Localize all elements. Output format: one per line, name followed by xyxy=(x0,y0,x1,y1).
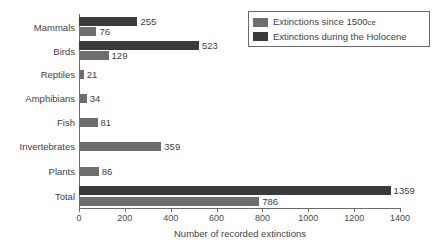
x-axis-tick-label: 0 xyxy=(76,213,81,224)
x-axis-tick-label: 400 xyxy=(163,213,178,224)
x-axis-tick-label: 1000 xyxy=(298,213,318,224)
legend-label-holocene: Extinctions during the Holocene xyxy=(273,31,407,42)
category-label: Amphibians xyxy=(5,93,79,104)
bar-value-label: 86 xyxy=(99,167,113,176)
bar-since-1500 xyxy=(79,142,161,151)
bar-since-1500 xyxy=(79,197,259,206)
x-axis-tick xyxy=(79,208,80,212)
x-axis-tick-label: 1200 xyxy=(344,213,364,224)
bar-value-label: 1359 xyxy=(391,186,415,195)
bar-holocene xyxy=(79,17,137,26)
x-axis-tick-label: 200 xyxy=(117,213,132,224)
legend-label-since-1500: Extinctions since 1500ce xyxy=(273,16,376,28)
x-axis-title: Number of recorded extinctions xyxy=(79,228,401,240)
bar-value-label: 523 xyxy=(199,41,218,50)
bar-since-1500 xyxy=(79,167,99,176)
bar-value-label: 21 xyxy=(84,70,98,79)
x-axis-line xyxy=(79,208,401,209)
x-axis-tick xyxy=(171,208,172,212)
chart-legend: Extinctions since 1500ce Extinctions dur… xyxy=(248,11,430,47)
bar-since-1500 xyxy=(79,94,87,103)
category-label: Fish xyxy=(5,117,79,128)
category-label: Plants xyxy=(5,166,79,177)
x-axis-tick xyxy=(125,208,126,212)
bar-value-label: 359 xyxy=(161,142,180,151)
category-label: Invertebrates xyxy=(5,141,79,152)
legend-era-suffix: ce xyxy=(368,18,376,27)
bar-since-1500 xyxy=(79,27,96,36)
legend-item-since-1500: Extinctions since 1500ce xyxy=(253,15,425,29)
x-axis-tick-label: 600 xyxy=(209,213,224,224)
bar-value-label: 129 xyxy=(109,51,128,60)
legend-swatch-since-1500 xyxy=(253,18,268,27)
extinctions-bar-chart: MammalsBirdsReptilesAmphibiansFishInvert… xyxy=(0,0,440,250)
x-axis-tick xyxy=(400,208,401,212)
x-axis-tick xyxy=(262,208,263,212)
x-axis-tick xyxy=(217,208,218,212)
x-axis-tick xyxy=(354,208,355,212)
bar-since-1500 xyxy=(79,51,109,60)
x-axis-tick xyxy=(308,208,309,212)
category-label: Birds xyxy=(5,46,79,57)
category-label: Total xyxy=(5,191,79,202)
category-label: Reptiles xyxy=(5,69,79,80)
bar-value-label: 76 xyxy=(96,27,110,36)
bar-value-label: 81 xyxy=(98,118,112,127)
bar-value-label: 786 xyxy=(259,197,278,206)
legend-swatch-holocene xyxy=(253,32,268,41)
bar-holocene xyxy=(79,41,199,50)
category-label: Mammals xyxy=(5,22,79,33)
bar-since-1500 xyxy=(79,118,98,127)
legend-item-holocene: Extinctions during the Holocene xyxy=(253,29,425,43)
bar-value-label: 34 xyxy=(87,94,101,103)
category-label-group: MammalsBirdsReptilesAmphibiansFishInvert… xyxy=(0,0,79,250)
bar-value-label: 255 xyxy=(137,17,156,26)
x-axis-tick-label: 800 xyxy=(255,213,270,224)
x-axis-tick-label: 1400 xyxy=(390,213,410,224)
bar-holocene xyxy=(79,186,391,195)
